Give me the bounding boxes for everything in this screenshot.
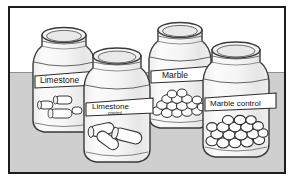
jar-2-label-subtext: control (108, 111, 122, 116)
chip (53, 96, 72, 104)
jar-2-rim-inner (98, 51, 136, 63)
chip (177, 89, 187, 97)
chip (167, 90, 177, 98)
chip (234, 115, 246, 124)
scene: Limestone (10, 8, 284, 172)
illustration-stage: Limestone (0, 0, 296, 190)
jar-4-rim-inner (217, 45, 255, 57)
chip (72, 107, 82, 114)
chip (48, 109, 72, 118)
jar-3-label-text: Marble (162, 70, 188, 80)
jar-3-rim-inner (163, 25, 198, 36)
image-frame: Limestone (8, 6, 286, 174)
chip (38, 101, 54, 109)
chip (207, 123, 218, 132)
chip (246, 116, 256, 124)
jar-1-label-text: Limestone (40, 75, 79, 85)
jar-1-rim-inner (47, 30, 82, 41)
jars-illustration: Limestone (10, 8, 284, 172)
chip (192, 96, 202, 104)
chip (222, 116, 233, 125)
jar-4-label-text: Marble control (210, 99, 261, 108)
